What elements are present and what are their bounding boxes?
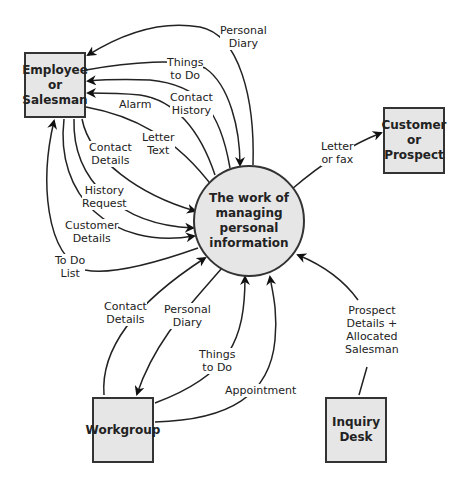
flow-label-workgroup-contact-details: Contact Details bbox=[104, 300, 147, 326]
flow-label-personal-diary: Personal Diary bbox=[220, 24, 267, 50]
entity-label: Customer or Prospect bbox=[381, 118, 446, 163]
flow-label-letter-or-fax: Letter or fax bbox=[321, 140, 354, 166]
flow-label-contact-history: Contact History bbox=[170, 91, 213, 117]
flow-label-alarm: Alarm bbox=[119, 98, 151, 111]
flow-label-to-do-list: To Do List bbox=[55, 254, 85, 280]
entity-inquiry-desk: Inquiry Desk bbox=[325, 397, 387, 463]
flow-label-contact-details: Contact Details bbox=[89, 141, 132, 167]
flow-personal-diary-to-workgroup bbox=[137, 268, 222, 394]
flow-label-history-request: History Request bbox=[82, 184, 127, 210]
flow-label-things-to-do: Things to Do bbox=[167, 56, 203, 82]
flow-label-appointment: Appointment bbox=[225, 384, 296, 397]
entity-workgroup: Workgroup bbox=[92, 397, 154, 463]
entity-label: Inquiry Desk bbox=[332, 415, 380, 445]
flow-label-prospect-details: Prospect Details + Allocated Salesman bbox=[345, 304, 399, 356]
process-managing-personal-information: The work of managing personal informatio… bbox=[193, 165, 305, 277]
entity-customer-or-prospect: Customer or Prospect bbox=[383, 107, 445, 174]
entity-employee-or-salesman: Employee or Salesman bbox=[24, 52, 86, 118]
entity-label: Workgroup bbox=[86, 423, 161, 438]
flow-label-letter-text: Letter Text bbox=[142, 131, 175, 157]
flow-label-workgroup-personal-diary: Personal Diary bbox=[164, 303, 211, 329]
entity-label: Employee or Salesman bbox=[22, 63, 88, 108]
flow-label-workgroup-things-to-do: Things to Do bbox=[199, 348, 235, 374]
flow-history-request-from-employee bbox=[74, 119, 193, 228]
flow-label-customer-details: Customer Details bbox=[65, 219, 118, 245]
process-label: The work of managing personal informatio… bbox=[209, 191, 289, 251]
